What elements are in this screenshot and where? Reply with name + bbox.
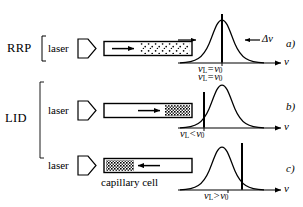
particle-cloud-c bbox=[106, 160, 134, 171]
particle-cloud-a bbox=[140, 43, 190, 54]
laser-label-b: laser bbox=[48, 105, 69, 116]
laser-label-c: laser bbox=[48, 160, 69, 171]
nu-L-b: νL bbox=[180, 128, 189, 139]
particle-cloud-b bbox=[165, 105, 190, 116]
figure-canvas: RRP LID laser laser laser capillary cell… bbox=[0, 0, 303, 207]
laser-emitter-c bbox=[78, 156, 96, 175]
laser-frequency-label-b: νL<ν0 bbox=[180, 129, 204, 140]
laser-label-a: laser bbox=[48, 43, 69, 54]
axis-label-nu-a: ν bbox=[284, 56, 289, 67]
line-center-label-b: νL=ν0 bbox=[198, 72, 222, 83]
panel-label-c: c) bbox=[286, 163, 295, 174]
rrp-bracket bbox=[42, 36, 46, 61]
delta-nu-text: Δν bbox=[262, 33, 273, 44]
nu-L-b-top: νL bbox=[198, 71, 207, 82]
nu-0-b-top: ν0 bbox=[214, 71, 222, 82]
laser-frequency-label-c: νL>ν0 bbox=[204, 191, 228, 202]
row-c-apparatus bbox=[78, 156, 192, 175]
nu-L-c: νL bbox=[204, 190, 213, 201]
panel-label-a: a) bbox=[286, 38, 295, 49]
mechanism-label-lid: LID bbox=[5, 112, 27, 125]
capillary-cell-label: capillary cell bbox=[101, 177, 158, 188]
mechanism-label-rrp: RRP bbox=[7, 42, 32, 55]
laser-emitter-a bbox=[78, 39, 96, 58]
plot-c bbox=[178, 143, 281, 193]
delta-nu-label: Δν bbox=[262, 34, 273, 45]
panel-label-b: b) bbox=[286, 101, 295, 112]
axis-label-nu-b: ν bbox=[284, 121, 289, 132]
plot-b bbox=[178, 85, 281, 131]
nu-0-b: ν0 bbox=[196, 128, 204, 139]
laser-emitter-b bbox=[78, 101, 96, 120]
lid-bracket bbox=[40, 82, 44, 158]
row-a-apparatus bbox=[78, 39, 192, 58]
nu-0-c: ν0 bbox=[220, 190, 228, 201]
row-b-apparatus bbox=[78, 101, 192, 120]
axis-label-nu-c: ν bbox=[284, 183, 289, 194]
